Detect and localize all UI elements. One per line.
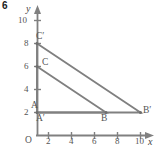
- x-tick-label-8: 8: [115, 137, 120, 146]
- y-tick-label-2: 2: [24, 108, 29, 117]
- vertex-dot-c: [36, 65, 39, 68]
- y-tick-label-6: 6: [24, 62, 29, 71]
- y-axis-label: y: [26, 4, 30, 14]
- y-tick-label-8: 8: [24, 39, 29, 48]
- y-tick-label-4: 4: [24, 85, 29, 94]
- point-label-c-prime: C′: [36, 32, 44, 42]
- y-tick-label-10: 10: [18, 16, 27, 25]
- x-tick-label-2: 2: [46, 137, 51, 146]
- geometry-figure: 6: [0, 0, 159, 153]
- vertex-dot-c-prime: [36, 42, 39, 45]
- point-label-b: B: [101, 114, 107, 124]
- x-tick-label-6: 6: [92, 137, 97, 146]
- triangle-a-prime-b-prime-c-prime: [37, 44, 141, 113]
- point-label-b-prime: B′: [143, 106, 151, 116]
- x-tick-label-4: 4: [69, 137, 74, 146]
- point-label-c: C: [42, 58, 48, 68]
- point-label-a-prime: A′: [36, 114, 45, 124]
- triangle-a-b-c: [37, 67, 106, 113]
- vertex-dot-b-prime: [139, 111, 142, 114]
- y-axis-arrowhead: [34, 5, 41, 14]
- point-label-a: A: [31, 101, 38, 111]
- x-tick-label-10: 10: [135, 137, 144, 146]
- x-axis-label: x: [148, 137, 152, 147]
- origin-label: O: [25, 136, 32, 146]
